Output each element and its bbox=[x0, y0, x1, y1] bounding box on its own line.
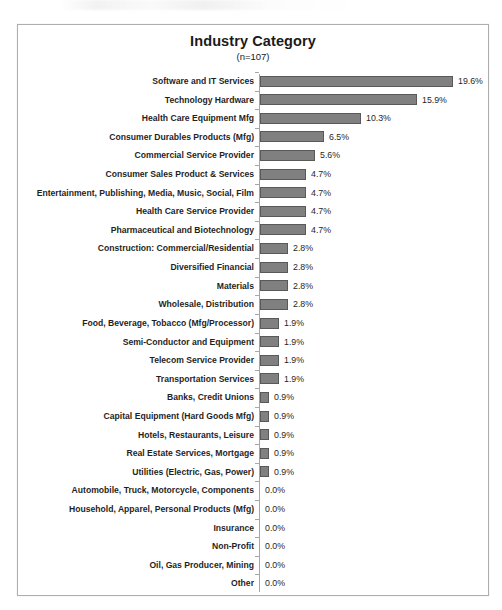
category-label: Oil, Gas Producer, Mining bbox=[149, 556, 254, 575]
bar-value-label: 0.0% bbox=[265, 537, 285, 556]
axis-tick bbox=[255, 426, 259, 427]
axis-tick bbox=[255, 463, 259, 464]
bar-row: Automobile, Truck, Motorcycle, Component… bbox=[18, 481, 490, 500]
bar-row: Health Care Equipment Mfg10.3% bbox=[18, 109, 490, 128]
bar-value-label: 5.6% bbox=[320, 146, 340, 165]
bar-value-label: 0.9% bbox=[274, 463, 294, 482]
bar-value-label: 1.9% bbox=[284, 370, 304, 389]
axis-tick bbox=[255, 574, 259, 575]
axis-tick bbox=[255, 519, 259, 520]
bar-value-label: 0.0% bbox=[265, 574, 285, 593]
bar-row: Entertainment, Publishing, Media, Music,… bbox=[18, 184, 490, 203]
bar-row: Transportation Services1.9% bbox=[18, 370, 490, 389]
bar bbox=[260, 150, 315, 161]
bar-value-label: 0.0% bbox=[265, 481, 285, 500]
axis-tick bbox=[255, 128, 259, 129]
bar-value-label: 1.9% bbox=[284, 351, 304, 370]
axis-tick bbox=[255, 388, 259, 389]
bar-value-label: 6.5% bbox=[329, 128, 349, 147]
axis-tick bbox=[255, 556, 259, 557]
bar bbox=[260, 76, 453, 87]
category-label: Banks, Credit Unions bbox=[167, 388, 254, 407]
bar-value-label: 0.9% bbox=[274, 388, 294, 407]
bar bbox=[260, 280, 288, 291]
category-label: Commercial Service Provider bbox=[135, 146, 254, 165]
bar-row: Non-Profit0.0% bbox=[18, 537, 490, 556]
bar-row: Wholesale, Distribution2.8% bbox=[18, 295, 490, 314]
bar-value-label: 15.9% bbox=[422, 91, 447, 110]
axis-tick bbox=[255, 351, 259, 352]
bar-value-label: 0.0% bbox=[265, 556, 285, 575]
bar-value-label: 4.7% bbox=[311, 165, 331, 184]
category-label: Hotels, Restaurants, Leisure bbox=[138, 426, 254, 445]
category-label: Technology Hardware bbox=[165, 91, 254, 110]
category-label: Health Care Equipment Mfg bbox=[142, 109, 254, 128]
bar-row: Oil, Gas Producer, Mining0.0% bbox=[18, 556, 490, 575]
bar bbox=[260, 131, 324, 142]
bar-row: Banks, Credit Unions0.9% bbox=[18, 388, 490, 407]
bar bbox=[260, 94, 417, 105]
axis-tick bbox=[255, 481, 259, 482]
category-label: Pharmaceutical and Biotechnology bbox=[111, 221, 254, 240]
category-label: Semi-Conductor and Equipment bbox=[123, 333, 254, 352]
bar bbox=[260, 169, 306, 180]
bar bbox=[260, 206, 306, 217]
bar-value-label: 2.8% bbox=[293, 277, 313, 296]
bar-rows-container: Software and IT Services19.6%Technology … bbox=[18, 72, 490, 593]
bar bbox=[260, 187, 306, 198]
bar-row: Construction: Commercial/Residential2.8% bbox=[18, 239, 490, 258]
bar bbox=[260, 448, 269, 459]
axis-tick bbox=[255, 72, 259, 73]
bar-value-label: 0.0% bbox=[265, 500, 285, 519]
bar bbox=[260, 243, 288, 254]
bar-value-label: 0.0% bbox=[265, 519, 285, 538]
bar bbox=[260, 392, 269, 403]
category-label: Utilities (Electric, Gas, Power) bbox=[132, 463, 254, 482]
bar-value-label: 10.3% bbox=[366, 109, 391, 128]
bar-row: Capital Equipment (Hard Goods Mfg)0.9% bbox=[18, 407, 490, 426]
bar-row: Materials2.8% bbox=[18, 277, 490, 296]
axis-tick bbox=[255, 165, 259, 166]
axis-tick bbox=[255, 202, 259, 203]
bar-row: Diversified Financial2.8% bbox=[18, 258, 490, 277]
category-label: Construction: Commercial/Residential bbox=[98, 239, 254, 258]
axis-tick bbox=[255, 314, 259, 315]
bar-row: Semi-Conductor and Equipment1.9% bbox=[18, 333, 490, 352]
chart-title: Industry Category bbox=[18, 33, 488, 49]
bar bbox=[260, 113, 361, 124]
axis-tick bbox=[255, 109, 259, 110]
category-label: Capital Equipment (Hard Goods Mfg) bbox=[104, 407, 254, 426]
bar-value-label: 4.7% bbox=[311, 184, 331, 203]
bar-value-label: 4.7% bbox=[311, 202, 331, 221]
bar bbox=[260, 373, 279, 384]
bar bbox=[260, 299, 288, 310]
axis-tick bbox=[255, 333, 259, 334]
axis-tick bbox=[255, 407, 259, 408]
category-label: Telecom Service Provider bbox=[150, 351, 254, 370]
axis-tick bbox=[255, 184, 259, 185]
axis-tick bbox=[255, 370, 259, 371]
bar bbox=[260, 429, 269, 440]
bar bbox=[260, 411, 269, 422]
bar-value-label: 1.9% bbox=[284, 333, 304, 352]
bar-row: Other0.0% bbox=[18, 574, 490, 593]
bar-row: Consumer Durables Products (Mfg)6.5% bbox=[18, 128, 490, 147]
bar-value-label: 0.9% bbox=[274, 426, 294, 445]
category-label: Food, Beverage, Tobacco (Mfg/Processor) bbox=[82, 314, 254, 333]
category-label: Consumer Durables Products (Mfg) bbox=[109, 128, 254, 147]
axis-tick bbox=[255, 537, 259, 538]
category-label: Automobile, Truck, Motorcycle, Component… bbox=[72, 481, 254, 500]
category-label: Materials bbox=[217, 277, 254, 296]
axis-tick bbox=[255, 221, 259, 222]
scan-artifact bbox=[60, 0, 360, 10]
bar bbox=[260, 318, 279, 329]
bar-row: Household, Apparel, Personal Products (M… bbox=[18, 500, 490, 519]
bar bbox=[260, 224, 306, 235]
bar-value-label: 1.9% bbox=[284, 314, 304, 333]
bar-value-label: 4.7% bbox=[311, 221, 331, 240]
bar-value-label: 0.9% bbox=[274, 407, 294, 426]
axis-tick bbox=[255, 500, 259, 501]
category-label: Non-Profit bbox=[212, 537, 254, 556]
bar-row: Utilities (Electric, Gas, Power)0.9% bbox=[18, 463, 490, 482]
category-label: Diversified Financial bbox=[170, 258, 254, 277]
